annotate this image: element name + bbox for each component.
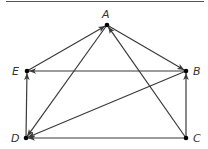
node-label-e: E xyxy=(12,65,19,78)
node-c xyxy=(184,136,189,141)
edge-e-to-a xyxy=(27,26,105,71)
edge-a-to-b xyxy=(107,25,184,70)
edge-c-to-a xyxy=(108,27,186,138)
node-d xyxy=(24,136,29,141)
node-e xyxy=(25,69,30,74)
edge-d-to-e xyxy=(26,73,27,138)
node-label-a: A xyxy=(101,8,110,21)
node-b xyxy=(184,69,189,74)
node-a xyxy=(105,23,110,28)
edges xyxy=(26,25,186,138)
edge-a-to-d xyxy=(27,25,107,136)
node-label-c: C xyxy=(193,132,201,145)
directed-graph: ABCDE xyxy=(0,0,208,149)
node-label-b: B xyxy=(193,65,201,78)
node-label-d: D xyxy=(11,132,19,145)
